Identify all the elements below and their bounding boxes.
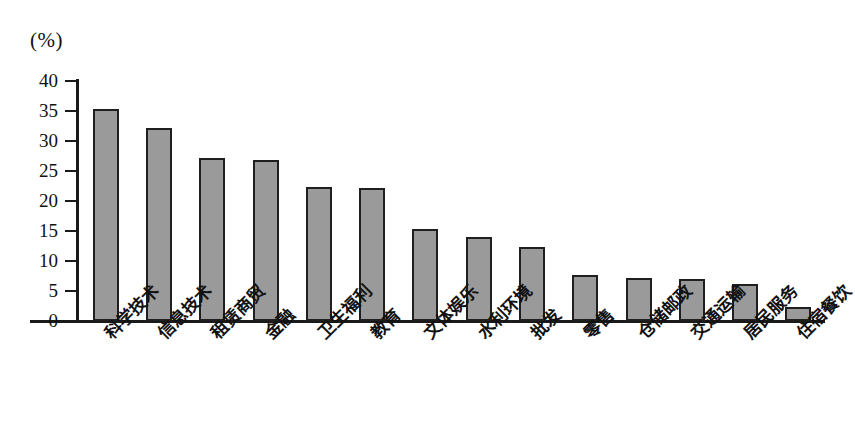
bar xyxy=(306,187,332,321)
y-axis-tick xyxy=(65,290,76,292)
y-axis-tick-label: 25 xyxy=(18,161,58,180)
y-axis-tick-label: 0 xyxy=(18,311,58,330)
y-axis-tick xyxy=(65,260,76,262)
y-axis-tick-label: 30 xyxy=(18,131,58,150)
y-axis-tick xyxy=(65,110,76,112)
y-axis-tick xyxy=(65,80,76,82)
y-axis-tick-label: 5 xyxy=(18,281,58,300)
y-axis-tick-label: 35 xyxy=(18,101,58,120)
y-axis-tick xyxy=(65,230,76,232)
y-axis-tick xyxy=(65,170,76,172)
y-axis-tick-label: 40 xyxy=(18,71,58,90)
plot-area xyxy=(76,81,825,321)
y-axis-tick xyxy=(65,140,76,142)
bar xyxy=(466,237,492,321)
y-axis-tick xyxy=(65,320,76,322)
bar xyxy=(412,229,438,321)
y-axis-tick xyxy=(65,200,76,202)
y-axis-tick-label: 10 xyxy=(18,251,58,270)
y-axis-tick-label: 15 xyxy=(18,221,58,240)
bar xyxy=(93,109,119,321)
y-axis-tick-label: 20 xyxy=(18,191,58,210)
y-axis-unit-label: (%) xyxy=(30,30,63,51)
